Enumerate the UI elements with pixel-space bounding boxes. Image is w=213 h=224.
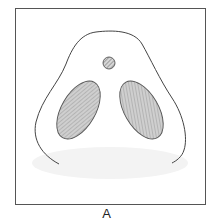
diagram-figure (0, 0, 213, 224)
small-hatched-circle (103, 57, 115, 69)
figure-label: A (0, 206, 213, 221)
shadow-band (32, 147, 188, 179)
